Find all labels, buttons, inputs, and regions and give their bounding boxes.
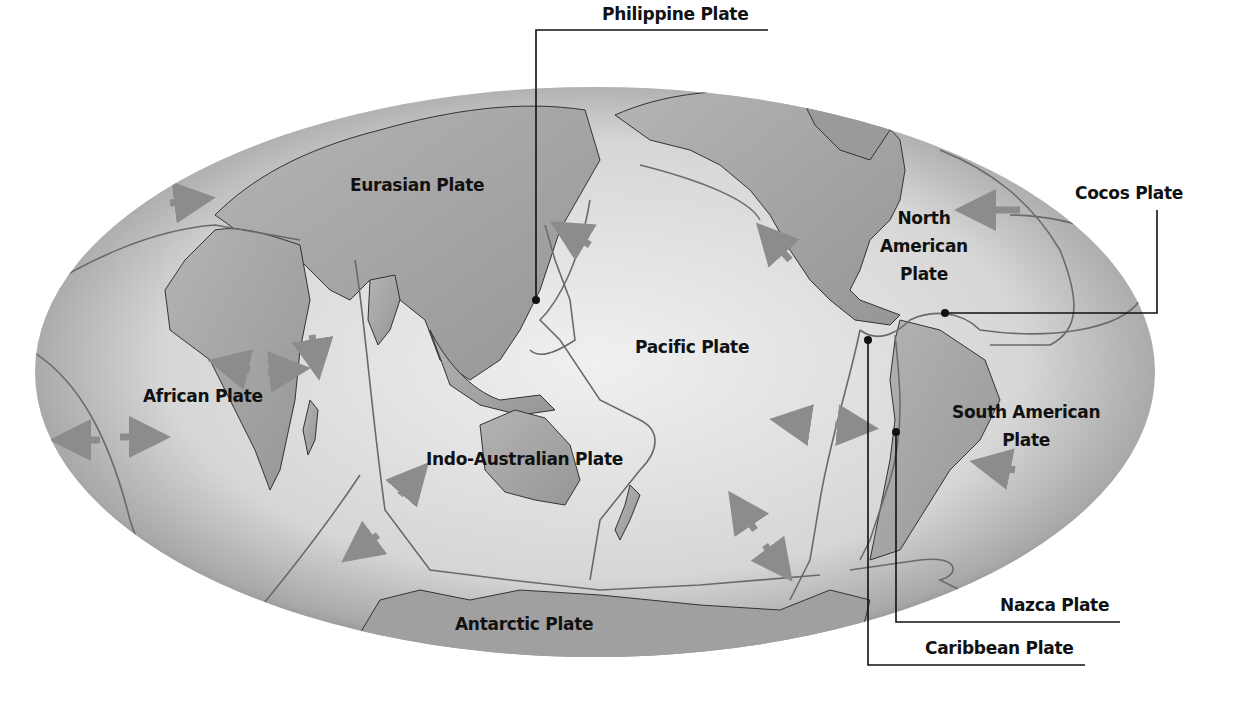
label-pacific-plate: Pacific Plate — [635, 338, 749, 358]
label-north-american-line-2: American — [880, 232, 968, 260]
label-south-american-plate: South American Plate — [952, 398, 1100, 454]
antarctica-landmass — [350, 590, 870, 700]
label-north-american-line-3: Plate — [880, 260, 968, 288]
callout-caribbean-plate: Caribbean Plate — [925, 638, 1073, 658]
label-african-plate: African Plate — [143, 387, 263, 407]
callout-cocos-plate: Cocos Plate — [1075, 183, 1183, 203]
label-south-american-line-2: Plate — [952, 426, 1100, 454]
tectonic-plates-diagram: Eurasian Plate North American Plate Paci… — [0, 0, 1245, 711]
label-indo-australian-plate: Indo-Australian Plate — [426, 450, 623, 470]
callout-nazca-plate: Nazca Plate — [1000, 595, 1109, 615]
label-north-american-plate: North American Plate — [880, 204, 968, 288]
label-south-american-line-1: South American — [952, 398, 1100, 426]
label-eurasian-plate: Eurasian Plate — [350, 176, 484, 196]
label-north-american-line-1: North — [880, 204, 968, 232]
label-antarctic-plate: Antarctic Plate — [455, 615, 593, 635]
callout-philippine-plate: Philippine Plate — [602, 4, 748, 24]
